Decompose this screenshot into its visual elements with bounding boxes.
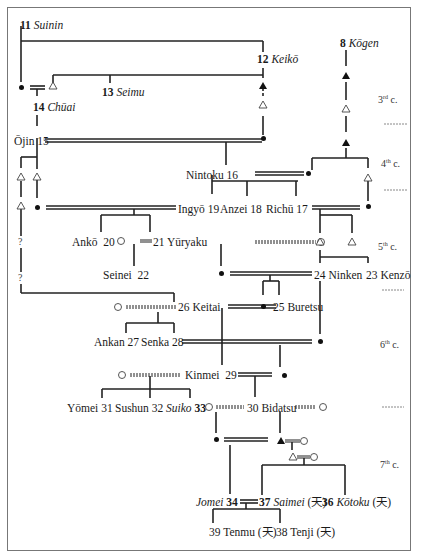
open-triangle-icon — [49, 82, 57, 89]
unknown-marker: ? — [18, 237, 22, 247]
open-triangle-icon — [33, 173, 41, 180]
open-triangle-icon — [348, 238, 356, 245]
open-triangle-icon — [316, 238, 324, 245]
open-triangle-icon — [259, 101, 267, 108]
filled-triangle-icon — [277, 437, 285, 444]
filled-triangle-icon — [259, 82, 267, 89]
filled-triangle-icon — [342, 72, 350, 79]
open-triangle-icon — [342, 105, 350, 112]
filled-triangle-icon — [342, 139, 350, 146]
open-triangle-icon — [17, 173, 25, 180]
triangle-symbols — [0, 0, 425, 552]
open-triangle-icon — [364, 174, 372, 181]
open-triangle-icon — [17, 202, 25, 209]
unknown-marker: ? — [18, 273, 22, 283]
open-triangle-icon — [289, 453, 297, 460]
